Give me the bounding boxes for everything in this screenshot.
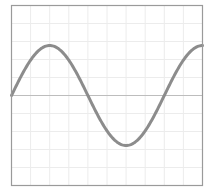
sine-wave-chart xyxy=(0,0,209,194)
